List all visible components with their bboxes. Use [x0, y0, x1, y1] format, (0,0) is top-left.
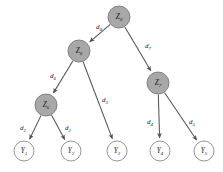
tree-node-Y1[interactable]: Y1: [14, 141, 34, 161]
node-circle-Z7: [147, 72, 169, 94]
tree-edge-d6: [53, 61, 73, 93]
tree-node-Z6[interactable]: Z6: [35, 94, 57, 116]
tree-diagram: d8d7d6d3d1d2d4d5 Z9Z8Z7Z6Y1Y2Y3Y4Y5: [0, 0, 223, 172]
tree-node-Y4[interactable]: Y4: [150, 141, 170, 161]
node-circle-Z8: [68, 40, 90, 62]
node-circle-Y2: [61, 141, 81, 161]
tree-node-Y2[interactable]: Y2: [61, 141, 81, 161]
edge-label-d2: d2: [65, 124, 72, 133]
tree-edge-d2: [51, 115, 64, 139]
node-circle-Y1: [14, 141, 34, 161]
edge-label-d6: d6: [50, 72, 57, 81]
nodes-layer: Z9Z8Z7Z6Y1Y2Y3Y4Y5: [14, 6, 214, 161]
node-circle-Z6: [35, 94, 57, 116]
tree-diagram-canvas: d8d7d6d3d1d2d4d5 Z9Z8Z7Z6Y1Y2Y3Y4Y5: [0, 0, 223, 172]
node-circle-Z9: [108, 6, 130, 28]
edge-label-d4: d4: [147, 118, 154, 127]
edge-label-d5: d5: [189, 118, 196, 127]
tree-node-Z8[interactable]: Z8: [68, 40, 90, 62]
edge-label-d7: d7: [145, 42, 152, 51]
tree-node-Y3[interactable]: Y3: [107, 141, 127, 161]
tree-edge-d1: [30, 115, 41, 139]
edges-layer: [30, 24, 197, 140]
edge-label-d1: d1: [20, 124, 26, 133]
tree-node-Z9[interactable]: Z9: [108, 6, 130, 28]
tree-edge-d4: [158, 95, 159, 138]
node-circle-Y4: [150, 141, 170, 161]
node-circle-Y3: [107, 141, 127, 161]
tree-node-Y5[interactable]: Y5: [194, 141, 214, 161]
tree-node-Z7[interactable]: Z7: [147, 72, 169, 94]
edge-label-d8: d8: [96, 23, 103, 32]
node-circle-Y5: [194, 141, 214, 161]
tree-edge-d5: [164, 93, 196, 141]
edge-label-d3: d3: [102, 96, 109, 105]
